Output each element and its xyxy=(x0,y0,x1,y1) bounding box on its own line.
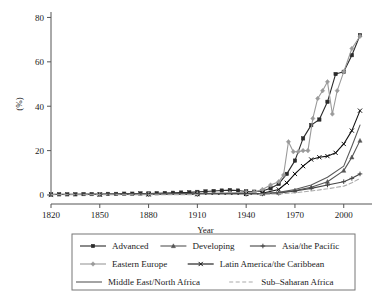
x-tick-label: 2000 xyxy=(335,210,354,220)
marker-plus xyxy=(261,244,266,249)
marker-diamond xyxy=(301,148,305,153)
marker-square xyxy=(350,53,353,56)
marker-plus xyxy=(350,176,355,181)
chart-container: 0204060801820185018801910194019702000Yea… xyxy=(0,0,383,303)
legend-item-middle-east-north-africa[interactable]: Middle East/North Africa xyxy=(76,277,200,287)
marker-diamond xyxy=(296,149,300,154)
y-tick-label: 0 xyxy=(40,190,45,200)
x-tick-label: 1880 xyxy=(140,210,159,220)
legend-label: Eastern Europe xyxy=(112,259,167,269)
marker-x xyxy=(285,181,289,185)
marker-x xyxy=(293,172,297,176)
line-chart: 0204060801820185018801910194019702000Yea… xyxy=(0,0,383,303)
legend-item-asia-the-pacific[interactable]: Asia/the Pacific xyxy=(250,241,339,251)
marker-diamond xyxy=(311,116,315,121)
marker-plus xyxy=(358,172,363,177)
marker-x xyxy=(342,142,346,146)
x-tick-label: 1820 xyxy=(42,210,61,220)
marker-square xyxy=(212,189,215,192)
marker-diamond xyxy=(306,148,310,153)
series-advanced xyxy=(49,33,361,196)
y-tick-label: 80 xyxy=(35,13,45,23)
marker-triangle xyxy=(358,138,362,142)
marker-diamond xyxy=(330,112,334,117)
marker-x xyxy=(350,129,354,133)
x-tick-label: 1970 xyxy=(286,210,305,220)
marker-square xyxy=(91,244,94,247)
x-tick-label: 1910 xyxy=(188,210,207,220)
marker-diamond xyxy=(286,139,290,144)
series-line xyxy=(51,141,360,195)
marker-square xyxy=(318,118,321,121)
legend-label: Asia/the Pacific xyxy=(282,241,339,251)
marker-x xyxy=(358,109,362,113)
marker-diamond xyxy=(91,262,95,267)
legend-label: Sub–Saharan Africa xyxy=(261,277,333,287)
legend-item-latin-america-the-caribbean[interactable]: Latin America/the Caribbean xyxy=(188,259,325,269)
legend-item-developing[interactable]: Developing xyxy=(160,241,234,251)
marker-diamond xyxy=(291,149,295,154)
legend-item-advanced[interactable]: Advanced xyxy=(80,241,149,251)
series-eastern-europe xyxy=(49,34,362,197)
y-tick-label: 20 xyxy=(35,146,45,156)
marker-x xyxy=(334,151,338,155)
marker-plus xyxy=(341,179,346,184)
x-tick-label: 1850 xyxy=(91,210,110,220)
marker-square xyxy=(236,189,239,192)
marker-square xyxy=(334,72,337,75)
series-line xyxy=(51,36,360,194)
marker-square xyxy=(326,100,329,103)
marker-square xyxy=(204,190,207,193)
legend-label: Advanced xyxy=(112,241,149,251)
legend-item-sub-saharan-africa[interactable]: Sub–Saharan Africa xyxy=(229,277,333,287)
marker-square xyxy=(220,189,223,192)
marker-triangle xyxy=(350,155,354,159)
y-tick-label: 60 xyxy=(35,57,45,67)
legend-label: Latin America/the Caribbean xyxy=(220,259,325,269)
series-middle-east-north-africa xyxy=(51,125,360,194)
y-axis-title: (%) xyxy=(14,97,24,111)
legend-label: Developing xyxy=(192,241,234,251)
legend-item-eastern-europe[interactable]: Eastern Europe xyxy=(80,259,167,269)
marker-square xyxy=(301,137,304,140)
marker-diamond xyxy=(335,88,339,93)
legend-label: Middle East/North Africa xyxy=(108,277,200,287)
marker-x xyxy=(301,164,305,168)
y-tick-label: 40 xyxy=(35,102,45,112)
series-line xyxy=(51,125,360,194)
marker-square xyxy=(293,159,296,162)
x-tick-label: 1940 xyxy=(237,210,256,220)
